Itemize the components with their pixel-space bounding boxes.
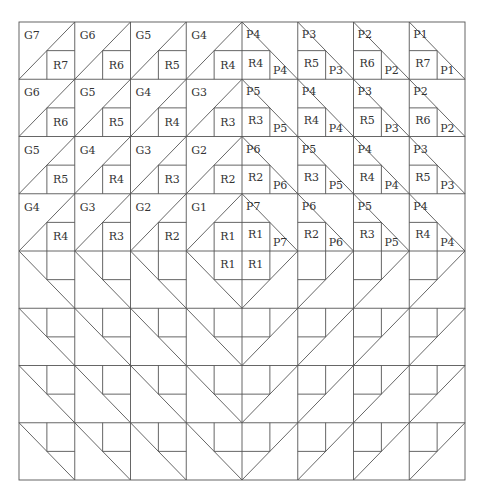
r-label: R1: [248, 258, 263, 271]
p-label: P2: [384, 64, 398, 77]
p-label: P4: [413, 200, 427, 213]
r-label: R6: [360, 57, 375, 70]
p-label: P6: [246, 143, 260, 156]
r-label: R2: [248, 171, 263, 184]
r-label: R4: [304, 114, 319, 127]
r-label: R5: [109, 116, 124, 129]
g-label: G6: [24, 86, 40, 99]
r-label: R1: [248, 228, 263, 241]
r-label: R1: [220, 258, 235, 271]
r-label: R1: [220, 230, 235, 243]
p-label: P3: [329, 64, 343, 77]
p-label: P5: [273, 122, 287, 135]
r-label: R3: [220, 116, 235, 129]
r-label: R5: [304, 57, 319, 70]
p-label: P4: [358, 143, 372, 156]
p-label: P3: [440, 179, 454, 192]
p-label: P1: [440, 64, 454, 77]
p-label: P6: [329, 236, 343, 249]
p-label: P4: [384, 179, 398, 192]
p-label: P4: [440, 236, 454, 249]
p-label: P2: [358, 28, 372, 41]
r-label: R4: [53, 230, 68, 243]
g-label: G2: [136, 201, 152, 214]
g-label: G3: [136, 144, 152, 157]
r-label: R7: [53, 59, 68, 72]
r-label: R6: [53, 116, 68, 129]
r-label: R4: [164, 116, 179, 129]
p-label: P2: [440, 122, 454, 135]
p-label: P3: [302, 28, 316, 41]
p-label: P3: [384, 122, 398, 135]
r-label: R7: [415, 57, 430, 70]
r-label: R3: [360, 228, 375, 241]
r-label: R4: [220, 59, 235, 72]
p-label: P5: [246, 85, 260, 98]
r-label: R5: [360, 114, 375, 127]
p-label: P4: [273, 64, 287, 77]
r-label: R5: [415, 171, 430, 184]
r-label: R6: [109, 59, 124, 72]
p-label: P1: [413, 28, 427, 41]
r-label: R4: [109, 173, 124, 186]
g-label: G5: [80, 86, 96, 99]
g-label: G5: [136, 29, 152, 42]
r-label: R3: [164, 173, 179, 186]
p-label: P6: [302, 200, 316, 213]
p-label: P5: [358, 200, 372, 213]
p-label: P3: [358, 85, 372, 98]
r-label: R6: [415, 114, 430, 127]
p-label: P5: [329, 179, 343, 192]
p-label: P4: [302, 85, 316, 98]
r-label: R2: [304, 228, 319, 241]
p-label: P3: [413, 143, 427, 156]
r-label: R3: [304, 171, 319, 184]
g-label: G6: [80, 29, 96, 42]
g-label: G4: [191, 29, 207, 42]
p-label: P7: [273, 236, 287, 249]
g-label: G1: [191, 201, 207, 214]
r-label: R4: [248, 57, 263, 70]
g-label: G4: [80, 144, 96, 157]
r-label: R2: [164, 230, 179, 243]
p-label: P5: [384, 236, 398, 249]
r-label: R4: [415, 228, 430, 241]
r-label: R2: [220, 173, 235, 186]
r-label: R5: [164, 59, 179, 72]
g-label: G4: [136, 86, 152, 99]
p-label: P4: [329, 122, 343, 135]
r-label: R4: [360, 171, 375, 184]
r-label: R5: [53, 173, 68, 186]
g-label: G2: [191, 144, 207, 157]
g-label: G3: [80, 201, 96, 214]
p-label: P4: [246, 28, 260, 41]
p-label: P2: [413, 85, 427, 98]
g-label: G5: [24, 144, 40, 157]
g-label: G4: [24, 201, 40, 214]
r-label: R3: [109, 230, 124, 243]
g-label: G7: [24, 29, 40, 42]
p-label: P5: [302, 143, 316, 156]
quilt-diagram: G7R7G6R6G5R5G4R4P4R4P4P3R5P3P2R6P2P1R7P1…: [0, 0, 481, 500]
g-label: G3: [191, 86, 207, 99]
p-label: P6: [273, 179, 287, 192]
r-label: R3: [248, 114, 263, 127]
p-label: P7: [246, 200, 260, 213]
